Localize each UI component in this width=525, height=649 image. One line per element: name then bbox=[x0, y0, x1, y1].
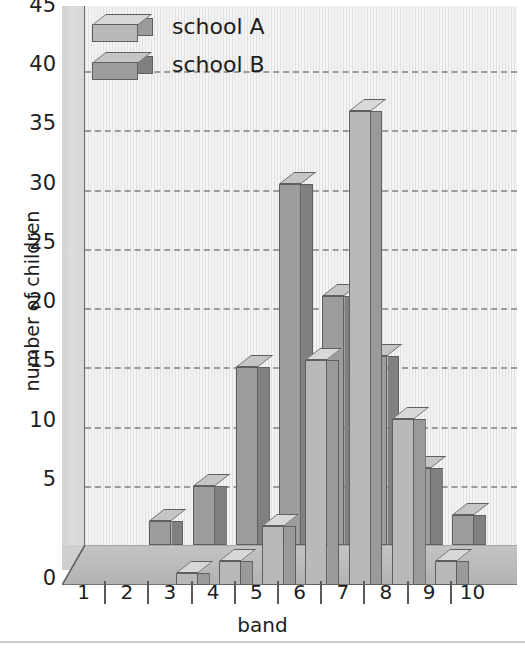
swatch-front-face bbox=[92, 24, 138, 42]
x-axis-title: band bbox=[0, 613, 525, 637]
x-axis-tick-separator bbox=[234, 581, 236, 604]
legend-label: school A bbox=[172, 13, 265, 41]
bar-side-face bbox=[431, 468, 443, 545]
x-axis-tick-separator bbox=[450, 581, 452, 604]
bar-school-a-band-8 bbox=[392, 419, 414, 585]
bar-school-b-band-5 bbox=[279, 184, 301, 545]
bar-side-face bbox=[414, 419, 426, 585]
bar-chart: 454035302520151050 number of children 12… bbox=[0, 0, 525, 649]
x-axis-tick-label: 4 bbox=[192, 580, 235, 604]
legend-label: school B bbox=[172, 51, 265, 79]
bar-side-face bbox=[327, 360, 339, 585]
bar-side-face bbox=[371, 111, 383, 585]
bar-school-b-band-2 bbox=[149, 521, 171, 545]
x-axis-tick-label: 9 bbox=[408, 580, 451, 604]
cuboid-swatch-icon bbox=[92, 52, 154, 80]
x-axis-ticks: 12345678910 bbox=[62, 580, 517, 610]
gridline bbox=[85, 130, 517, 132]
bar-front-face bbox=[392, 419, 414, 585]
x-axis-tick-separator bbox=[147, 581, 149, 604]
bar-front-face bbox=[279, 184, 301, 545]
x-axis-tick-label: 7 bbox=[321, 580, 364, 604]
y-axis-tick-label: 40 bbox=[12, 54, 56, 75]
x-axis-tick-label: 1 bbox=[62, 580, 105, 604]
bar-school-a-band-7 bbox=[349, 111, 371, 585]
bar-side-face bbox=[474, 515, 486, 545]
bar-side-face bbox=[171, 521, 183, 545]
y-axis-tick-label: 5 bbox=[12, 469, 56, 490]
swatch-front-face bbox=[92, 62, 138, 80]
bar-front-face bbox=[236, 367, 258, 545]
x-axis-tick-separator bbox=[363, 581, 365, 604]
y-axis-tick-label: 10 bbox=[12, 410, 56, 431]
bar-front-face bbox=[149, 521, 171, 545]
bar-school-b-band-3 bbox=[193, 486, 215, 545]
bar-front-face bbox=[452, 515, 474, 545]
plot-left-wall bbox=[62, 6, 85, 545]
y-axis-tick-label: 35 bbox=[12, 113, 56, 134]
bar-school-a-band-5 bbox=[262, 526, 284, 585]
y-axis-tick-label: 0 bbox=[12, 568, 56, 589]
plot-area bbox=[62, 6, 517, 576]
bar-school-b-band-9 bbox=[452, 515, 474, 545]
bar-front-face bbox=[193, 486, 215, 545]
bar-school-b-band-4 bbox=[236, 367, 258, 545]
bar-side-face bbox=[258, 367, 270, 545]
x-axis-tick-label: 5 bbox=[235, 580, 278, 604]
x-axis-tick-label: 3 bbox=[148, 580, 191, 604]
bar-side-face bbox=[284, 526, 296, 585]
x-axis-tick-separator bbox=[320, 581, 322, 604]
bar-front-face bbox=[262, 526, 284, 585]
x-axis-tick-label: 8 bbox=[364, 580, 407, 604]
x-axis-tick-label: 2 bbox=[105, 580, 148, 604]
bar-school-a-band-6 bbox=[305, 360, 327, 585]
x-axis-tick-separator bbox=[407, 581, 409, 604]
x-axis-tick-separator bbox=[191, 581, 193, 604]
bar-side-face bbox=[215, 486, 227, 545]
y-axis-tick-label: 45 bbox=[12, 0, 56, 16]
x-axis-tick-label: 10 bbox=[451, 580, 494, 604]
cuboid-swatch-icon bbox=[92, 14, 154, 42]
x-axis-tick-separator bbox=[104, 581, 106, 604]
x-axis-tick-label: 6 bbox=[278, 580, 321, 604]
bar-front-face bbox=[349, 111, 371, 585]
bottom-divider bbox=[0, 641, 525, 643]
x-axis-tick-separator bbox=[277, 581, 279, 604]
y-axis-title: number of children bbox=[21, 191, 43, 411]
bar-front-face bbox=[305, 360, 327, 585]
